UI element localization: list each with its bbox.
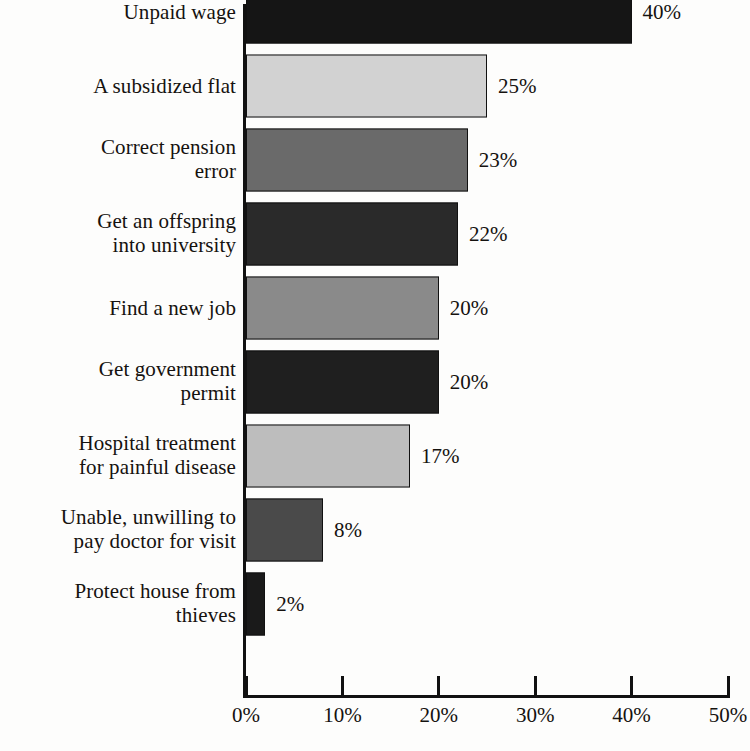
- category-label: Correct pension error: [6, 135, 236, 184]
- category-label: Protect house from thieves: [6, 579, 236, 628]
- chart-row: Hospital treatment for painful disease 1…: [0, 418, 750, 493]
- bar-value-label: 17%: [421, 443, 460, 468]
- bar-value-label: 23%: [479, 147, 518, 172]
- category-label: Hospital treatment for painful disease: [6, 431, 236, 480]
- bar: [246, 572, 265, 635]
- bar: [246, 498, 323, 561]
- category-label: Unpaid wage: [6, 0, 236, 24]
- chart-row: Unable, unwilling to pay doctor for visi…: [0, 492, 750, 567]
- x-axis-line: [243, 695, 729, 698]
- bar: [246, 276, 439, 339]
- chart-row: A subsidized flat 25%: [0, 48, 750, 123]
- bar-value-label: 8%: [334, 517, 362, 542]
- chart-row: Get government permit 20%: [0, 344, 750, 419]
- bar: [246, 54, 487, 117]
- bar: [246, 350, 439, 413]
- plot-area: Unpaid wage 40% A subsidized flat 25% Co…: [0, 0, 750, 690]
- chart-row: Protect house from thieves 2%: [0, 566, 750, 641]
- bar-value-label: 22%: [469, 221, 508, 246]
- category-label: Unable, unwilling to pay doctor for visi…: [6, 505, 236, 554]
- x-axis-tick-label: 30%: [516, 703, 555, 728]
- chart-row: Correct pension error 23%: [0, 122, 750, 197]
- chart-row: Unpaid wage 40%: [0, 0, 750, 49]
- x-axis-tick-label: 0%: [232, 703, 260, 728]
- chart-row: Get an offspring into university 22%: [0, 196, 750, 271]
- x-axis-tick-label: 20%: [420, 703, 459, 728]
- bar-value-label: 25%: [498, 73, 537, 98]
- x-axis-tick-label: 50%: [709, 703, 748, 728]
- bar-value-label: 2%: [276, 591, 304, 616]
- bar-value-label: 20%: [450, 295, 489, 320]
- bar: [246, 202, 458, 265]
- x-axis-tick-label: 10%: [323, 703, 362, 728]
- bar-value-label: 20%: [450, 369, 489, 394]
- category-label: Get an offspring into university: [6, 209, 236, 258]
- chart-row: Find a new job 20%: [0, 270, 750, 345]
- bar: [246, 0, 632, 43]
- bar: [246, 128, 468, 191]
- bar-value-label: 40%: [643, 0, 682, 24]
- bar-chart: Unpaid wage 40% A subsidized flat 25% Co…: [0, 0, 750, 751]
- category-label: Get government permit: [6, 357, 236, 406]
- category-label: Find a new job: [6, 295, 236, 320]
- bar: [246, 424, 410, 487]
- x-axis-tick-label: 40%: [612, 703, 651, 728]
- category-label: A subsidized flat: [6, 73, 236, 98]
